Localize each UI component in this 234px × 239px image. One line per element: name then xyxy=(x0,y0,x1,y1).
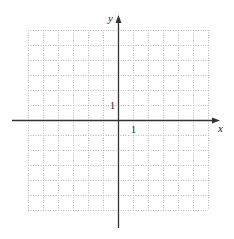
coordinate-plane: y x 1 1 xyxy=(0,0,234,239)
x-axis-label: x xyxy=(217,122,223,134)
x-tick-label: 1 xyxy=(131,124,136,135)
y-axis-label: y xyxy=(107,12,113,24)
y-axis-arrow-icon xyxy=(116,15,122,23)
y-tick-label: 1 xyxy=(110,100,115,111)
